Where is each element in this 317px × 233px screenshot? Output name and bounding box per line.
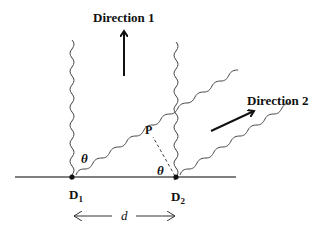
detector-d1-main: D (69, 187, 78, 202)
detector-d1-label: D1 (69, 187, 83, 204)
detector-d1-dot (69, 174, 74, 179)
wave-d1-diagonal (76, 70, 238, 175)
angle-theta-d1-label: θ (81, 151, 88, 166)
direction2-label: Direction 2 (247, 93, 309, 108)
detector-d2-main: D (171, 189, 180, 204)
detector-d2-dot (173, 174, 178, 179)
two-detector-interference-diagram: Direction 1 Direction 2 P θ θ D1 D2 d (0, 0, 317, 233)
wave-d1-vertical (70, 40, 74, 179)
wave-d2-diagonal (180, 103, 291, 175)
direction1-label: Direction 1 (93, 10, 155, 25)
detector-d2-sub: 2 (180, 196, 185, 206)
direction2-arrow-icon (211, 111, 254, 131)
detector-d2-label: D2 (171, 189, 185, 206)
angle-theta-d2-label: θ (157, 163, 164, 178)
separation-d-label: d (121, 208, 128, 223)
point-p-label: P (145, 123, 152, 137)
detector-d1-sub: 1 (78, 194, 83, 204)
